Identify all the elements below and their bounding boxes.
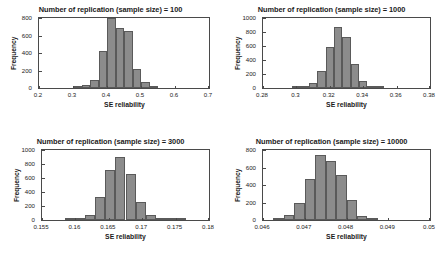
histogram-bar <box>82 85 91 88</box>
histogram-bar <box>141 82 150 88</box>
y-tick-mark <box>263 150 266 151</box>
histogram-bar <box>336 175 346 221</box>
figure-grid: Number of replication (sample size) = 10… <box>0 0 442 264</box>
x-tick-label: 0.046 <box>254 223 269 230</box>
histogram-bar <box>107 18 116 88</box>
histogram-bar <box>150 86 159 88</box>
x-axis-label: SE reliability <box>221 101 442 108</box>
y-tick-mark <box>263 203 266 204</box>
x-tick-mark <box>208 86 209 89</box>
x-tick-mark <box>347 218 348 221</box>
histogram-bar <box>309 83 317 88</box>
x-tick-label: 0.4 <box>102 91 110 98</box>
histogram-bar <box>376 86 384 88</box>
x-tick-mark <box>263 218 264 221</box>
y-tick-mark <box>39 18 42 19</box>
x-tick-label: 0.17 <box>135 223 147 230</box>
x-tick-mark <box>141 86 142 89</box>
y-tick-mark <box>42 206 45 207</box>
x-tick-mark <box>263 86 264 89</box>
histogram-bar <box>99 51 108 88</box>
y-tick-label: 400 <box>246 56 256 63</box>
y-tick-label: 200 <box>22 66 32 73</box>
x-tick-mark <box>429 86 430 89</box>
y-tick-label: 800 <box>246 146 256 153</box>
histogram-bar <box>347 200 357 220</box>
y-tick-label: 600 <box>246 163 256 170</box>
histogram-bar <box>85 215 95 220</box>
histogram-bar <box>75 218 85 220</box>
x-tick-label: 0.047 <box>296 223 311 230</box>
y-tick-mark <box>42 192 45 193</box>
histogram-bar <box>317 71 325 89</box>
histogram-bar <box>146 215 156 220</box>
x-tick-label: 0.049 <box>380 223 395 230</box>
histogram-bar <box>305 179 315 220</box>
y-tick-mark <box>263 46 266 47</box>
histogram-bar <box>156 218 166 220</box>
y-tick-label: 1000 <box>242 14 256 21</box>
histogram-bars <box>263 18 430 88</box>
x-tick-mark <box>296 86 297 89</box>
y-tick-mark <box>263 168 266 169</box>
x-tick-label: 0.165 <box>100 223 115 230</box>
x-tick-mark <box>429 218 430 221</box>
y-tick-label: 800 <box>22 14 32 21</box>
y-tick-label: 400 <box>25 188 35 195</box>
x-tick-label: 0.3 <box>68 91 76 98</box>
histogram-bar <box>166 218 176 220</box>
chart-title: Number of replication (sample size) = 10… <box>0 5 221 14</box>
plot-area <box>262 149 431 221</box>
histogram-bar <box>342 37 350 88</box>
y-tick-mark <box>263 185 266 186</box>
chart-panel-1: Number of replication (sample size) = 10… <box>0 0 221 132</box>
x-axis-label: SE reliability <box>0 101 221 108</box>
x-tick-label: 0.36 <box>390 91 402 98</box>
histogram-bar <box>301 86 309 88</box>
histogram-bar <box>357 216 367 220</box>
y-tick-mark <box>39 36 42 37</box>
y-axis-ticks: 0200400600800 <box>221 149 259 221</box>
y-tick-mark <box>39 53 42 54</box>
y-tick-mark <box>39 88 42 89</box>
y-tick-mark <box>263 60 266 61</box>
histogram-bars <box>42 150 209 220</box>
y-tick-label: 400 <box>246 181 256 188</box>
y-tick-label: 800 <box>25 160 35 167</box>
histogram-bar <box>115 157 125 220</box>
x-tick-mark <box>142 218 143 221</box>
histogram-bar <box>294 203 304 220</box>
x-tick-mark <box>109 218 110 221</box>
y-axis-ticks: 02004006008001000 <box>0 149 38 221</box>
histogram-bar <box>176 218 186 220</box>
histogram-bar <box>326 161 336 220</box>
x-tick-mark <box>39 86 40 89</box>
x-tick-label: 0.6 <box>170 91 178 98</box>
y-tick-label: 600 <box>25 174 35 181</box>
x-tick-label: 0.3 <box>291 91 299 98</box>
y-tick-label: 400 <box>22 49 32 56</box>
x-axis-label: SE reliability <box>0 233 221 240</box>
histogram-bar <box>273 218 283 220</box>
histogram-bar <box>126 174 136 220</box>
chart-panel-3: Number of replication (sample size) = 30… <box>0 132 221 264</box>
x-tick-mark <box>73 86 74 89</box>
y-tick-mark <box>263 88 266 89</box>
x-tick-mark <box>42 218 43 221</box>
x-tick-label: 0.5 <box>136 91 144 98</box>
x-tick-label: 0.16 <box>68 223 80 230</box>
y-tick-label: 0 <box>253 216 256 223</box>
histogram-bar <box>367 218 377 220</box>
y-tick-mark <box>263 32 266 33</box>
histogram-bar <box>90 80 99 88</box>
histogram-bar <box>315 155 325 220</box>
histogram-bar <box>116 28 125 88</box>
histogram-bar <box>284 215 294 220</box>
histogram-bar <box>136 202 146 220</box>
y-tick-label: 1000 <box>21 146 35 153</box>
histogram-bars <box>263 150 430 220</box>
histogram-bars <box>39 18 209 88</box>
histogram-bar <box>124 31 133 88</box>
x-tick-label: 0.048 <box>338 223 353 230</box>
y-tick-label: 200 <box>25 202 35 209</box>
